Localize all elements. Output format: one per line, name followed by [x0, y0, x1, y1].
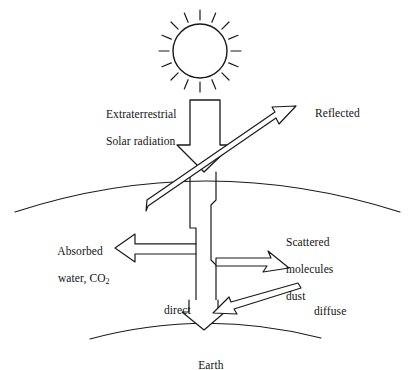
diffuse-text: diffuse — [314, 305, 346, 317]
extraterrestrial-solar-radiation-label: Extraterrestrial Solar radiation — [94, 94, 176, 162]
atmosphere-boundary-arc — [15, 181, 400, 212]
scattered-line-1: Scattered — [286, 236, 330, 248]
extraterrestrial-line-2: Solar radiation — [106, 135, 176, 147]
absorbed-label: Absorbed water, CO2 — [46, 231, 110, 302]
sun-icon — [159, 10, 241, 92]
absorbed-line-2: water, CO2 — [58, 272, 110, 284]
reflected-label: Reflected — [303, 93, 360, 134]
earth-label: Earth — [181, 345, 229, 370]
direct-text: direct — [164, 304, 191, 316]
reflected-text: Reflected — [315, 107, 360, 119]
diffuse-label: diffuse — [302, 291, 346, 332]
absorbed-water-co2-text: water, CO — [58, 272, 106, 284]
co2-subscript: 2 — [106, 277, 110, 286]
solar-radiation-diagram: Extraterrestrial Solar radiation Reflect… — [0, 0, 411, 370]
direct-label: direct — [152, 290, 191, 331]
earth-text: Earth — [198, 359, 223, 370]
beam-channel-right-wall — [211, 172, 216, 265]
scattered-line-2: molecules — [286, 263, 334, 275]
extraterrestrial-line-1: Extraterrestrial — [106, 108, 177, 120]
absorbed-line-1: Absorbed — [57, 245, 103, 257]
absorbed-radiation-arrow — [115, 234, 196, 262]
diagram-canvas — [0, 0, 411, 370]
